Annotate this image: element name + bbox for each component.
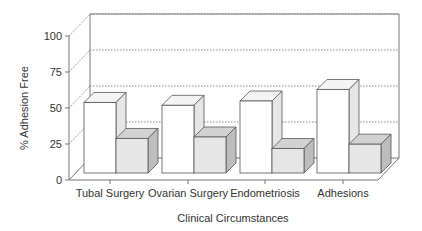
y-tick-label: 100 (44, 30, 62, 42)
x-tick-label: Ovarian Surgery (148, 187, 229, 199)
x-tick-label: Tubal Surgery (76, 187, 145, 199)
gridline-side (69, 14, 90, 36)
y-tick-label: 50 (50, 102, 62, 114)
y-tick-label: 25 (50, 138, 62, 150)
x-tick-label: Adhesions (317, 187, 369, 199)
x-tick-label: Endometriosis (230, 187, 300, 199)
bar (162, 105, 194, 173)
bar (240, 101, 272, 173)
x-axis-title: Clinical Circumstances (177, 212, 289, 224)
bar (272, 149, 304, 173)
bar (84, 102, 116, 173)
bar-chart: 0255075100Tubal SurgeryOvarian SurgeryEn… (0, 0, 422, 231)
bar (349, 144, 381, 173)
bar (116, 138, 148, 173)
chart-canvas: 0255075100Tubal SurgeryOvarian SurgeryEn… (0, 0, 422, 231)
y-tick-label: 0 (56, 174, 62, 186)
gridline-side (69, 50, 90, 72)
y-axis-title: % Adhesion Free (18, 66, 30, 150)
bar (317, 89, 349, 173)
bar (194, 137, 226, 173)
y-tick-label: 75 (50, 66, 62, 78)
